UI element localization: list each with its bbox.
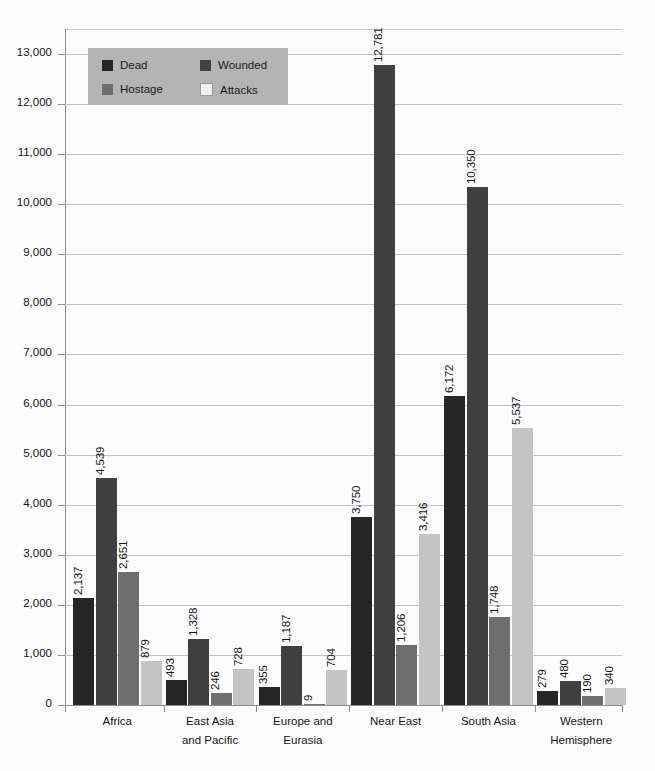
bar-value-label: 355	[257, 665, 269, 684]
y-axis-tick-label: 7,000	[23, 346, 52, 358]
y-axis-tick-label: 12,000	[17, 96, 52, 108]
bar-value-label: 728	[232, 647, 244, 666]
bar-wounded: 1,187	[281, 646, 302, 705]
x-axis-group-separator	[535, 705, 536, 712]
plot-area: 2,1374,5392,6518794931,3282467283551,187…	[65, 29, 622, 705]
y-axis-tick-mark	[58, 104, 65, 105]
legend-label-dead: Dead	[120, 59, 148, 71]
bar-group: 4931,328246728	[166, 29, 255, 705]
bar-group: 3551,1879704	[259, 29, 348, 705]
y-axis-tick-label: 5,000	[23, 447, 52, 459]
bar-value-label: 246	[209, 671, 221, 690]
bar-dead: 6,172	[444, 396, 465, 705]
x-axis-label-western-hemisphere: WesternHemisphere	[521, 712, 641, 750]
y-axis-tick-mark	[58, 154, 65, 155]
legend-label-wounded: Wounded	[218, 59, 267, 71]
bar-value-label: 5,537	[510, 396, 522, 424]
bar-value-label: 4,539	[94, 446, 106, 474]
y-axis-tick-label: 6,000	[23, 397, 52, 409]
bar-value-label: 3,750	[350, 486, 362, 514]
y-axis-tick-mark	[58, 354, 65, 355]
x-axis-label-line: Hemisphere	[521, 731, 641, 750]
bar-attacks: 3,416	[419, 534, 440, 705]
x-axis-label-line: Eurasia	[243, 731, 363, 750]
bar-dead: 2,137	[73, 598, 94, 705]
legend-entry-hostage: Hostage	[102, 83, 163, 95]
y-axis-tick-label: 1,000	[23, 647, 52, 659]
bar-group: 3,75012,7811,2063,416	[351, 29, 440, 705]
bar-attacks: 879	[141, 661, 162, 705]
bar-value-label: 9	[302, 695, 314, 701]
y-axis-tick-mark	[58, 254, 65, 255]
bar-value-label: 1,328	[187, 607, 199, 635]
bar-value-label: 1,748	[488, 586, 500, 614]
legend-entry-wounded: Wounded	[200, 59, 267, 71]
bar-wounded: 10,350	[467, 187, 488, 705]
y-axis-tick-mark	[58, 304, 65, 305]
y-axis-tick-mark	[58, 405, 65, 406]
x-axis-group-separator	[442, 705, 443, 712]
legend-label-attacks: Attacks	[220, 84, 258, 96]
bar-value-label: 493	[164, 658, 176, 677]
x-axis-label-line: Western	[521, 712, 641, 731]
bar-value-label: 10,350	[465, 149, 477, 184]
x-axis-start-tick	[65, 705, 66, 712]
y-axis-tick-mark	[58, 705, 65, 706]
y-axis-tick-label: 4,000	[23, 497, 52, 509]
bar-wounded: 4,539	[96, 478, 117, 705]
y-axis-tick-mark	[58, 655, 65, 656]
bar-hostage: 190	[582, 696, 603, 706]
y-axis-tick-label: 13,000	[17, 46, 52, 58]
bar-dead: 493	[166, 680, 187, 705]
bar-value-label: 1,187	[280, 614, 292, 642]
bar-hostage: 1,748	[489, 617, 510, 705]
bar-wounded: 480	[560, 681, 581, 705]
y-axis-tick-label: 10,000	[17, 196, 52, 208]
y-axis-tick-label: 11,000	[18, 146, 52, 158]
y-axis-tick-label: 9,000	[23, 246, 52, 258]
bar-attacks: 728	[233, 669, 254, 705]
y-axis-tick-mark	[58, 204, 65, 205]
bar-value-label: 2,651	[117, 541, 129, 569]
legend-swatch-dead	[102, 60, 113, 71]
bar-value-label: 279	[536, 669, 548, 688]
legend-swatch-hostage	[102, 84, 113, 95]
legend-swatch-attacks	[200, 83, 213, 96]
bar-value-label: 480	[558, 659, 570, 678]
y-axis-tick-label: 8,000	[23, 296, 52, 308]
bar-dead: 3,750	[351, 517, 372, 705]
y-axis-tick-label: 0	[46, 697, 52, 709]
bar-dead: 355	[259, 687, 280, 705]
bar-wounded: 12,781	[374, 65, 395, 705]
y-axis-tick-mark	[58, 505, 65, 506]
y-axis-tick-label: 3,000	[23, 547, 52, 559]
y-axis-tick-mark	[58, 54, 65, 55]
x-axis-group-separator	[164, 705, 165, 712]
bar-value-label: 1,206	[395, 613, 407, 641]
y-axis-tick-label: 2,000	[23, 597, 52, 609]
bar-attacks: 5,537	[512, 428, 533, 705]
bar-value-label: 190	[581, 674, 593, 693]
x-axis-group-separator	[256, 705, 257, 712]
bar-wounded: 1,328	[188, 639, 209, 705]
bar-value-label: 6,172	[443, 365, 455, 393]
bar-attacks: 340	[605, 688, 626, 705]
bar-hostage: 1,206	[396, 645, 417, 705]
bar-attacks: 704	[326, 670, 347, 705]
bar-group: 2,1374,5392,651879	[73, 29, 162, 705]
bar-value-label: 704	[325, 648, 337, 667]
chart-legend: Dead Wounded Hostage Attacks	[88, 48, 288, 105]
y-axis-tick-mark	[58, 555, 65, 556]
bar-chart: 01,0002,0003,0004,0005,0006,0007,0008,00…	[0, 0, 655, 771]
bar-hostage: 2,651	[118, 572, 139, 705]
bar-group: 279480190340	[537, 29, 626, 705]
bar-value-label: 340	[603, 666, 615, 685]
y-axis-tick-labels: 01,0002,0003,0004,0005,0006,0007,0008,00…	[0, 29, 57, 706]
bar-group: 6,17210,3501,7485,537	[444, 29, 533, 705]
x-axis-line	[65, 705, 622, 706]
bar-value-label: 3,416	[417, 503, 429, 531]
bar-hostage: 9	[304, 704, 325, 705]
bar-dead: 279	[537, 691, 558, 705]
x-axis-group-separator	[349, 705, 350, 712]
x-axis-end-tick	[622, 705, 623, 712]
